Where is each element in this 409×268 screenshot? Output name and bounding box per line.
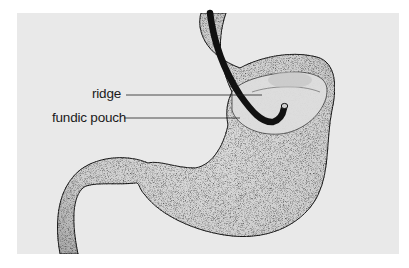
stomach-illustration xyxy=(0,0,409,268)
endoscope-tip xyxy=(281,103,287,108)
fundus-shadow xyxy=(268,72,312,88)
label-ridge: ridge xyxy=(92,86,121,101)
stomach-body xyxy=(57,13,334,254)
label-fundic-pouch: fundic pouch xyxy=(52,110,126,125)
